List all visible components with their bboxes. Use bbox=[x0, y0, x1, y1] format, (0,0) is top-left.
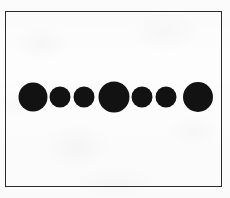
circle-marker-2 bbox=[50, 87, 71, 108]
circle-marker-4 bbox=[99, 82, 130, 113]
circle-marker-6 bbox=[156, 87, 177, 108]
circle-row-group bbox=[0, 0, 230, 198]
circle-marker-1 bbox=[19, 83, 48, 112]
circle-marker-3 bbox=[74, 87, 95, 108]
circle-marker-5 bbox=[132, 87, 153, 108]
circle-marker-7 bbox=[183, 82, 213, 112]
figure-canvas bbox=[0, 0, 230, 198]
